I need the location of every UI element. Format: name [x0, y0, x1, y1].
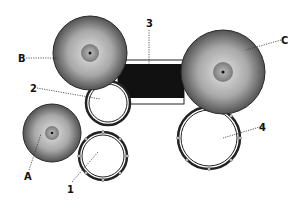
drum-kit-diagram: B 2 3 C A 1 4: [0, 0, 297, 200]
label-b: B: [18, 52, 26, 65]
cymbal-a: [23, 104, 81, 162]
label-2: 2: [30, 82, 37, 95]
cymbal-b: [53, 16, 127, 90]
label-3: 3: [146, 17, 153, 30]
label-a: A: [24, 170, 32, 183]
snare-drum-1: [78, 131, 129, 182]
label-1: 1: [67, 183, 74, 196]
label-c: C: [281, 34, 288, 47]
floor-tom-4: [177, 107, 242, 170]
label-4: 4: [259, 121, 266, 134]
cymbal-c: [181, 30, 265, 114]
